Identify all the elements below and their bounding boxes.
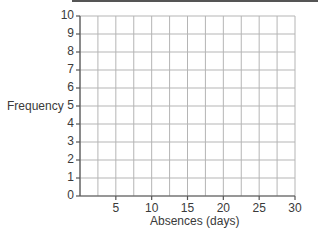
y-tick-label: 9 (54, 26, 74, 40)
x-tick-label: 25 (247, 201, 271, 215)
y-tick-label: 5 (54, 98, 74, 112)
y-tick-label: 0 (54, 188, 74, 202)
x-tick-label: 20 (211, 201, 235, 215)
y-tick-label: 7 (54, 62, 74, 76)
y-tick-label: 1 (54, 170, 74, 184)
y-tick-label: 3 (54, 134, 74, 148)
x-tick-label: 30 (283, 201, 307, 215)
y-tick-label: 6 (54, 80, 74, 94)
x-tick-label: 5 (104, 201, 128, 215)
x-axis-label: Absences (days) (150, 214, 239, 228)
y-tick-label: 2 (54, 152, 74, 166)
x-tick-label: 10 (140, 201, 164, 215)
y-tick-label: 4 (54, 116, 74, 130)
y-tick-label: 8 (54, 44, 74, 58)
x-tick-label: 15 (176, 201, 200, 215)
y-tick-label: 10 (54, 8, 74, 22)
